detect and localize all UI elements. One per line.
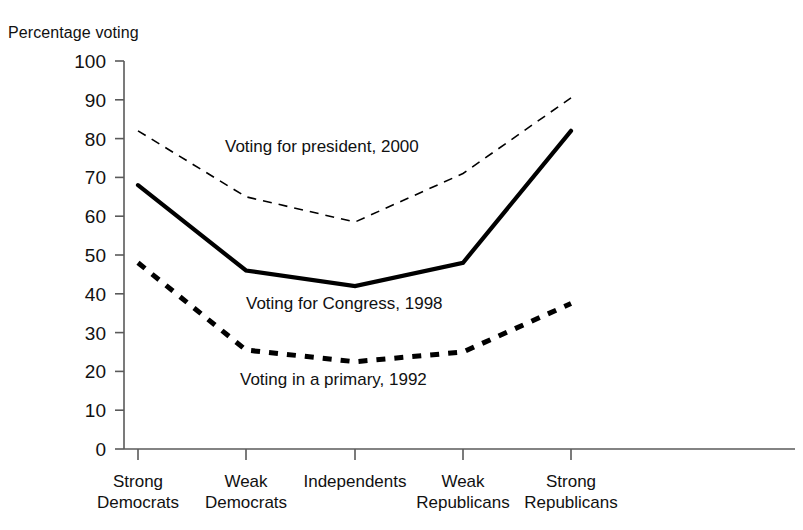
x-tick-label: WeakDemocrats: [205, 472, 287, 512]
y-axis-ticks: [115, 61, 124, 449]
y-tick-label: 90: [85, 90, 106, 111]
y-tick-label: 100: [74, 51, 106, 72]
x-tick-label: StrongRepublicans: [524, 472, 618, 512]
series-label-1: Voting for Congress, 1998: [246, 294, 443, 313]
series-label-0: Voting for president, 2000: [225, 137, 419, 156]
y-tick-label: 80: [85, 129, 106, 150]
series-line-0: [138, 98, 571, 222]
x-tick-label: WeakRepublicans: [416, 472, 510, 512]
y-tick-label: 0: [95, 439, 106, 460]
x-axis-ticks: [138, 449, 571, 460]
y-axis-tick-labels: 0102030405060708090100: [74, 51, 106, 460]
y-tick-label: 70: [85, 167, 106, 188]
y-tick-label: 60: [85, 206, 106, 227]
x-tick-label: StrongDemocrats: [97, 472, 179, 512]
y-tick-label: 10: [85, 400, 106, 421]
y-tick-label: 50: [85, 245, 106, 266]
x-tick-label: Independents: [303, 472, 406, 491]
chart-container: Percentage voting 0102030405060708090100…: [0, 0, 803, 530]
line-chart-plot: 0102030405060708090100 StrongDemocratsWe…: [0, 0, 803, 530]
series-label-2: Voting in a primary, 1992: [240, 370, 427, 389]
y-tick-label: 40: [85, 284, 106, 305]
x-axis-tick-labels: StrongDemocratsWeakDemocratsIndependents…: [97, 472, 618, 512]
y-tick-label: 30: [85, 323, 106, 344]
y-tick-label: 20: [85, 361, 106, 382]
